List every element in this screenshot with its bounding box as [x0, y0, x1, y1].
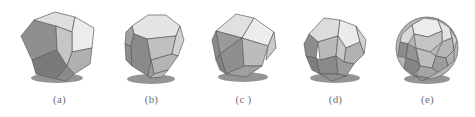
- figure-panel-b: (b): [104, 0, 199, 117]
- figure-panel-c: (c ): [196, 0, 291, 117]
- panel-caption-c: (c ): [196, 92, 291, 106]
- panel-caption-a: (a): [12, 92, 107, 106]
- figure-panel-a: (a): [12, 0, 107, 117]
- panel-caption-d: (d): [288, 92, 383, 106]
- panel-caption-e: (e): [380, 92, 475, 106]
- polyhedron-truncated-octahedron: [104, 4, 199, 88]
- polyhedron-icosidodecahedron: [288, 4, 383, 88]
- polyhedron-dodecahedron: [12, 4, 107, 88]
- panel-caption-b: (b): [104, 92, 199, 106]
- polyhedron-cuboctahedron: [196, 4, 291, 88]
- figure-panel-d: (d): [288, 0, 383, 117]
- polyhedra-figure: (a): [0, 0, 475, 117]
- polyhedron-truncated-icosahedron: [380, 4, 475, 88]
- figure-panel-e: (e): [380, 0, 475, 117]
